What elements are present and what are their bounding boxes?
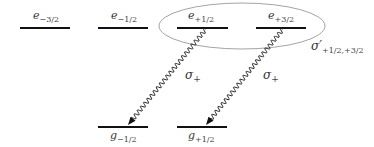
ground-level-label: g−1/2 [110,129,137,144]
coherence-label: σ′+1/2,+3/2 [311,39,364,55]
ground-level-label: g+1/2 [188,129,215,144]
transition-label-sigma-plus: σ+ [263,68,279,84]
ground-levels: g−1/2g+1/2 [98,127,227,144]
excited-level-label: e+1/2 [188,9,214,24]
excited-level-label: e+3/2 [268,9,294,24]
arrowhead-icon [128,117,136,125]
excited-level-label: e−3/2 [33,9,59,24]
transition-label-sigma-plus: σ+ [185,68,201,84]
energy-level-diagram: e−3/2e−1/2e+1/2e+3/2 g−1/2g+1/2 σ+σ+ σ′+… [0,0,374,147]
transitions: σ+σ+ [128,28,283,125]
coherence-sigma-label: σ′+1/2,+3/2 [311,39,364,55]
arrowhead-icon [206,117,214,125]
excited-level-label: e−1/2 [111,9,137,24]
coherence-ellipse [159,3,325,49]
